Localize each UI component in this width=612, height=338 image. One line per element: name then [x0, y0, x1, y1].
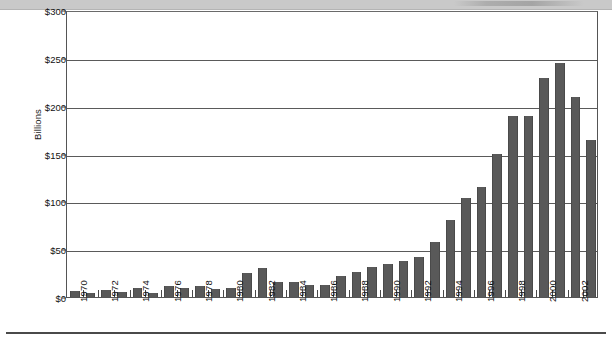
x-tick-label: 1992 — [422, 280, 433, 302]
x-tick-mark — [411, 290, 412, 297]
bar — [571, 97, 581, 297]
y-tick-label: $200 — [22, 101, 66, 112]
x-tick-label: 1988 — [359, 280, 370, 302]
x-tick-label: 1976 — [172, 280, 183, 302]
x-tick-label: 1972 — [109, 280, 120, 302]
x-tick-label: 1994 — [453, 280, 464, 302]
bar — [539, 78, 549, 297]
bar — [555, 63, 565, 297]
x-tick-mark — [255, 290, 256, 297]
x-tick-mark — [223, 290, 224, 297]
x-tick-label: 1986 — [328, 280, 339, 302]
y-tick-label: $50 — [22, 245, 66, 256]
x-tick-mark — [536, 290, 537, 297]
x-tick-label: 1996 — [485, 280, 496, 302]
y-tick-label: $150 — [22, 149, 66, 160]
x-tick-mark — [286, 290, 287, 297]
x-tick-mark — [443, 290, 444, 297]
x-tick-mark — [98, 290, 99, 297]
top-band-artifact — [454, 1, 584, 6]
x-tick-label: 1970 — [78, 280, 89, 302]
chart-figure: Billions $300$250$200$150$100$50$0 19701… — [0, 9, 612, 338]
bar — [586, 140, 596, 297]
x-tick-label: 1984 — [297, 280, 308, 302]
y-tick-label: $300 — [22, 6, 66, 17]
x-tick-label: 1990 — [391, 280, 402, 302]
x-tick-mark — [380, 290, 381, 297]
bar — [492, 154, 502, 297]
bottom-rule — [6, 332, 606, 334]
x-tick-mark — [130, 290, 131, 297]
bar — [524, 116, 534, 297]
x-tick-label: 2002 — [579, 280, 590, 302]
x-tick-mark — [317, 290, 318, 297]
x-tick-label: 2000 — [547, 280, 558, 302]
x-axis-labels: 1970197219741976197819801982198419861988… — [66, 300, 598, 336]
x-tick-mark — [192, 290, 193, 297]
x-tick-label: 1980 — [234, 280, 245, 302]
x-tick-mark — [349, 290, 350, 297]
bar-series — [67, 12, 597, 297]
bar — [508, 116, 518, 297]
y-tick-label: $0 — [22, 293, 66, 304]
x-tick-mark — [161, 290, 162, 297]
y-tick-label: $250 — [22, 53, 66, 64]
y-tick-label: $100 — [22, 197, 66, 208]
x-tick-label: 1978 — [203, 280, 214, 302]
plot-area — [66, 11, 598, 298]
x-tick-label: 1998 — [516, 280, 527, 302]
x-tick-mark — [568, 290, 569, 297]
x-tick-mark — [505, 290, 506, 297]
x-tick-mark — [474, 290, 475, 297]
x-tick-label: 1982 — [266, 280, 277, 302]
x-tick-label: 1974 — [140, 280, 151, 302]
